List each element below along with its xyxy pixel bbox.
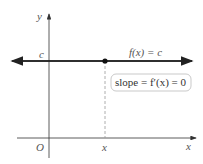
x-axis-label: x: [185, 140, 191, 152]
c-label: c: [39, 48, 44, 60]
x-tick-label: x: [101, 141, 107, 153]
slope-label: slope = f′(x) = 0: [115, 76, 187, 89]
y-axis-label: y: [36, 10, 42, 22]
point: [102, 58, 107, 63]
function-label: f(x) = c: [129, 46, 162, 59]
constant-function-diagram: slope = f′(x) = 0 f(x) = c y x O c x: [0, 0, 203, 164]
origin-label: O: [36, 141, 44, 153]
